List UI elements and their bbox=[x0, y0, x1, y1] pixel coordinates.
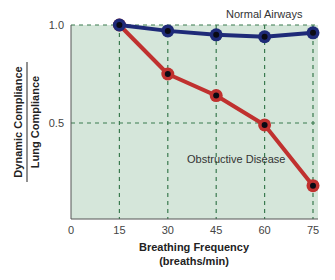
x-axis-title-line2: (breaths/min) bbox=[159, 255, 229, 267]
x-tick-label: 15 bbox=[113, 224, 125, 236]
plot-area bbox=[71, 25, 318, 219]
obstructive-disease-label: Obstructive Disease bbox=[187, 153, 285, 165]
point-center bbox=[310, 183, 316, 189]
point-center bbox=[213, 32, 219, 38]
x-axis-title-line1: Breathing Frequency bbox=[139, 241, 250, 253]
x-tick-label: 45 bbox=[210, 224, 222, 236]
x-tick-labels: 01530456075 bbox=[68, 224, 319, 236]
x-tick-label: 30 bbox=[162, 224, 174, 236]
x-tick-label: 75 bbox=[307, 224, 319, 236]
y-tick-labels: 0.51.0 bbox=[49, 19, 64, 129]
point-center bbox=[262, 122, 268, 128]
point-center bbox=[165, 71, 171, 77]
x-tick-label: 0 bbox=[68, 224, 74, 236]
y-tick-label: 0.5 bbox=[49, 117, 64, 129]
y-axis-title: Dynamic Compliance Lung Compliance bbox=[12, 62, 41, 182]
point-center bbox=[165, 28, 171, 34]
y-axis-title-numerator: Dynamic Compliance bbox=[12, 66, 24, 177]
x-tick-label: 60 bbox=[258, 224, 270, 236]
point-center bbox=[116, 22, 122, 28]
chart: 01530456075 0.51.0 Normal Airways Obstru… bbox=[0, 0, 335, 280]
normal-airways-label: Normal Airways bbox=[226, 8, 303, 20]
point-center bbox=[262, 34, 268, 40]
point-center bbox=[213, 93, 219, 99]
point-center bbox=[310, 30, 316, 36]
y-axis-title-denominator: Lung Compliance bbox=[29, 76, 41, 168]
y-tick-label: 1.0 bbox=[49, 19, 64, 31]
